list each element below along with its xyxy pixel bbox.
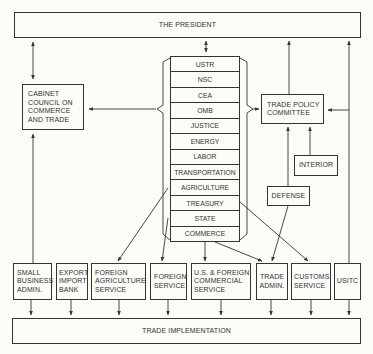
agency-label: U.S. & FOREIGN COMMERCIAL SERVICE [194, 269, 249, 295]
agency-foreign-agriculture-service: FOREIGN AGRICULTURE SERVICE [91, 263, 146, 300]
department-stack: USTR NSC CEA OMB JUSTICE ENERGY LABOR TR… [170, 56, 240, 242]
defense-box: DEFENSE [267, 186, 310, 206]
agency-trade-admin: TRADE ADMIN. [256, 263, 288, 300]
stack-item-omb: OMB [171, 103, 239, 118]
president-box: THE PRESIDENT [14, 12, 361, 38]
interior-box: INTERIOR [294, 155, 338, 176]
agency-label: EXPORT IMPORT BANK [59, 269, 88, 295]
agency-label: FOREIGN SERVICE [154, 273, 187, 290]
trade-implementation-box: TRADE IMPLEMENTATION [12, 318, 361, 344]
agency-export-import-bank: EXPORT IMPORT BANK [56, 263, 88, 300]
stack-item-agriculture: AGRICULTURE [171, 180, 239, 195]
agency-usitc: USITC [334, 263, 361, 300]
president-label: THE PRESIDENT [159, 21, 216, 30]
cabinet-council-box: CABINET COUNCIL ON COMMERCE AND TRADE [22, 84, 84, 130]
agency-foreign-service: FOREIGN SERVICE [150, 263, 187, 300]
trade-implementation-label: TRADE IMPLEMENTATION [142, 327, 231, 336]
trade-policy-committee-label: TRADE POLICY COMMITTEE [267, 101, 320, 118]
agency-label: FOREIGN AGRICULTURE SERVICE [95, 269, 146, 295]
agency-label: USITC [337, 277, 359, 286]
agency-label: CUSTOMS SERVICE [294, 273, 330, 290]
cabinet-council-label: CABINET COUNCIL ON COMMERCE AND TRADE [28, 90, 73, 123]
stack-item-treasury: TREASURY [171, 196, 239, 211]
stack-item-state: STATE [171, 211, 239, 226]
stack-item-ustr: USTR [171, 57, 239, 72]
trade-policy-committee-box: TRADE POLICY COMMITTEE [261, 94, 324, 124]
agency-label: SMALL BUSINESS ADMIN. [17, 269, 53, 295]
defense-label: DEFENSE [272, 192, 306, 201]
agency-label: TRADE ADMIN. [259, 273, 284, 290]
stack-item-justice: JUSTICE [171, 119, 239, 134]
agency-customs-service: CUSTOMS SERVICE [291, 263, 331, 300]
stack-item-energy: ENERGY [171, 134, 239, 149]
stack-item-cea: CEA [171, 88, 239, 103]
agency-small-business-admin: SMALL BUSINESS ADMIN. [13, 263, 52, 300]
interior-label: INTERIOR [299, 161, 333, 170]
stack-item-nsc: NSC [171, 72, 239, 87]
stack-item-commerce: COMMERCE [171, 227, 239, 241]
agency-us-foreign-commercial-service: U.S. & FOREIGN COMMERCIAL SERVICE [191, 263, 251, 300]
stack-item-transportation: TRANSPORTATION [171, 165, 239, 180]
stack-item-labor: LABOR [171, 150, 239, 165]
